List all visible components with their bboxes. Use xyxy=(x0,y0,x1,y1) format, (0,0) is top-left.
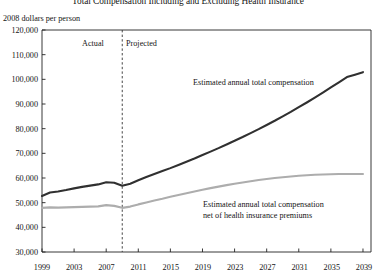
annotation-series-total-compensation: Estimated annual total compensation xyxy=(193,78,314,89)
y-tick-label: 60,000 xyxy=(0,174,38,183)
x-tick-label: 2039 xyxy=(344,263,376,272)
chart-title: Total Compensation Including and Excludi… xyxy=(0,0,376,6)
series-line-total-compensation xyxy=(42,72,363,196)
y-axis-label: 2008 dollars per person xyxy=(3,14,80,23)
y-tick-label: 30,000 xyxy=(0,248,38,257)
y-tick-marks xyxy=(42,30,46,252)
y-tick-label: 80,000 xyxy=(0,124,38,133)
y-tick-label: 110,000 xyxy=(0,50,38,59)
annotation-series-net-of-premiums: Estimated annual total compensation net … xyxy=(203,200,324,221)
annotation-net-line-1: Estimated annual total compensation xyxy=(203,200,324,211)
y-tick-label: 90,000 xyxy=(0,100,38,109)
annotation-projected: Projected xyxy=(126,39,157,50)
plot-area xyxy=(0,0,376,279)
y-tick-label: 100,000 xyxy=(0,75,38,84)
y-tick-label: 50,000 xyxy=(0,198,38,207)
y-tick-label: 70,000 xyxy=(0,149,38,158)
x-tick-marks xyxy=(42,249,363,253)
y-tick-label: 120,000 xyxy=(0,26,38,35)
annotation-net-line-2: net of health insurance premiums xyxy=(203,211,324,222)
chart-figure: Total Compensation Including and Excludi… xyxy=(0,0,376,279)
annotation-actual: Actual xyxy=(82,39,104,50)
y-tick-label: 40,000 xyxy=(0,223,38,232)
